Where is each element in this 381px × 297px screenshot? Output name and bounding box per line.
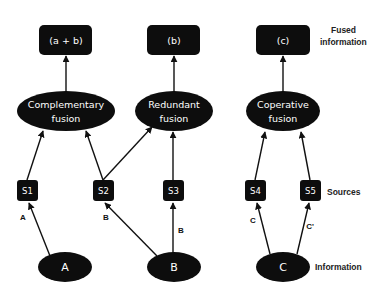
edge-c-s4 bbox=[257, 203, 270, 254]
edge-s5-f3 bbox=[301, 132, 310, 180]
fusion-label-line2: fusion bbox=[269, 113, 298, 124]
complementary-fusion-node: Complementary fusion bbox=[17, 91, 115, 131]
fused-output-c: (c) bbox=[256, 25, 310, 55]
edge-s1-f1 bbox=[27, 131, 43, 180]
information-label: A bbox=[61, 261, 69, 274]
edge-s2-f2 bbox=[103, 127, 152, 180]
row-label-information-fused: information bbox=[320, 37, 367, 47]
fusion-label-line1: Coperative bbox=[257, 99, 309, 110]
source-label: S1 bbox=[22, 186, 33, 196]
row-label-fused: Fused bbox=[331, 25, 356, 35]
redundant-fusion-node: Redundant fusion bbox=[135, 91, 213, 131]
edge-label-b-s2: B bbox=[103, 213, 109, 222]
edge-label-a: A bbox=[20, 213, 26, 222]
fused-output-label: (c) bbox=[277, 35, 290, 46]
source-s3: S3 bbox=[163, 180, 184, 201]
fusion-label-line1: Redundant bbox=[148, 99, 200, 110]
fusion-label-line1: Complementary bbox=[28, 99, 105, 110]
cooperative-fusion-node: Coperative fusion bbox=[246, 91, 320, 131]
edge-label-b-s3: B bbox=[178, 226, 184, 235]
source-label: S5 bbox=[305, 186, 316, 196]
fused-output-b: (b) bbox=[147, 25, 200, 55]
fused-output-label: (a + b) bbox=[49, 35, 82, 46]
edge-s2-f1 bbox=[86, 131, 103, 180]
edge-label-c-prime: C' bbox=[306, 222, 314, 231]
information-label: B bbox=[170, 261, 178, 274]
fused-output-label: (b) bbox=[167, 35, 180, 46]
source-s4: S4 bbox=[245, 180, 266, 201]
edge-label-c: C bbox=[250, 216, 256, 225]
source-label: S3 bbox=[168, 186, 179, 196]
information-node-c: C bbox=[256, 252, 310, 282]
fusion-label-line2: fusion bbox=[160, 113, 189, 124]
source-label: S2 bbox=[98, 186, 109, 196]
information-node-b: B bbox=[147, 252, 201, 282]
row-label-information: Information bbox=[315, 262, 362, 272]
information-node-a: A bbox=[38, 252, 92, 282]
source-s2: S2 bbox=[93, 180, 114, 201]
edge-b-s2 bbox=[105, 203, 157, 256]
fused-output-a-plus-b: (a + b) bbox=[39, 25, 92, 55]
information-label: C bbox=[279, 261, 287, 274]
fusion-label-line2: fusion bbox=[52, 113, 81, 124]
source-s1: S1 bbox=[17, 180, 38, 201]
source-label: S4 bbox=[250, 186, 261, 196]
fusion-diagram: (a + b) (b) (c) Complementary fusion Red… bbox=[0, 0, 381, 297]
edge-a-s1 bbox=[29, 203, 50, 256]
source-s5: S5 bbox=[300, 180, 321, 201]
edge-s4-f3 bbox=[255, 132, 265, 180]
row-label-sources: Sources bbox=[327, 187, 361, 197]
